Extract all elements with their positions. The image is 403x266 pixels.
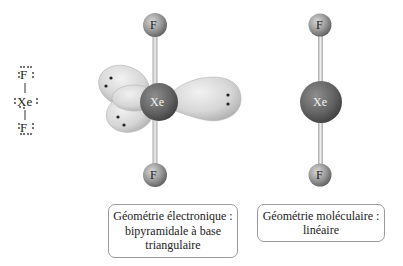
electron-geometry-model bbox=[93, 13, 241, 187]
atom-label-f-top: F bbox=[316, 18, 323, 33]
atom-label-f-bottom: F bbox=[316, 168, 323, 183]
lone-pair-lobe-right bbox=[172, 77, 241, 121]
atom-label-xe: Xe bbox=[150, 95, 164, 110]
atom-label-f-bottom: F bbox=[150, 168, 157, 183]
lewis-f-bottom: F bbox=[20, 121, 27, 134]
molecular-geometry-label-box: Géométrie moléculaire : linéaire bbox=[257, 204, 385, 242]
electron-geometry-line2: bipyramidale à base bbox=[109, 224, 237, 239]
atom-label-f-top: F bbox=[150, 18, 157, 33]
atom-label-xe: Xe bbox=[313, 95, 327, 110]
electron-geometry-label-box: Géométrie électronique : bipyramidale à … bbox=[108, 204, 238, 258]
electron-geometry-line3: triangulaire bbox=[109, 238, 237, 253]
lewis-f-top: F bbox=[20, 68, 27, 81]
molecular-geometry-line2: linéaire bbox=[258, 223, 384, 238]
molecular-geometry-line1: Géométrie moléculaire : bbox=[258, 209, 384, 224]
lewis-xe: Xe bbox=[17, 95, 32, 108]
electron-geometry-line1: Géométrie électronique : bbox=[109, 209, 237, 224]
